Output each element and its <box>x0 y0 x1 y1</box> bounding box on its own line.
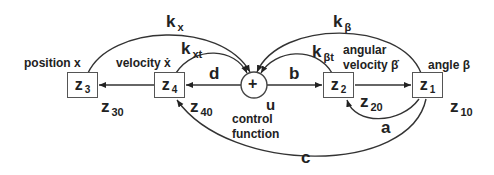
z2-initial: z20 <box>360 92 383 113</box>
node-z1-main: z <box>420 76 428 93</box>
z40-sub: 40 <box>201 106 213 118</box>
z30-sub: 30 <box>112 106 124 118</box>
edge-label-kxt: kxt <box>181 39 202 60</box>
edge-label-kx: kx <box>166 12 184 33</box>
z1-initial: z10 <box>450 97 473 118</box>
kxt-sub: xt <box>192 48 202 60</box>
z4-label: velocity ẋ <box>116 56 171 70</box>
edge-label-kbt: kβt <box>312 42 334 63</box>
control-system-diagram: z3 z4 z2 z1 + u control function positio… <box>0 0 494 175</box>
kbt-main: k <box>312 42 321 61</box>
z4-initial: z40 <box>190 97 213 118</box>
node-z1: z1 <box>412 72 443 98</box>
node-z4: z4 <box>154 72 185 98</box>
control-label-line2: function <box>232 127 279 141</box>
edge-a <box>347 99 419 119</box>
control-output-u: u <box>266 96 275 113</box>
node-z2-sub: 2 <box>341 84 347 95</box>
z20-sub: 20 <box>371 101 383 113</box>
node-z3-main: z <box>75 76 83 93</box>
kbeta-sub: β <box>344 21 351 33</box>
kx-main: k <box>166 12 175 31</box>
z3-initial: z30 <box>101 97 124 118</box>
kbt-sub: βt <box>323 51 333 63</box>
control-label-line1: control <box>232 112 273 126</box>
node-z4-sub: 4 <box>172 84 178 95</box>
kbeta-main: k <box>333 12 342 31</box>
edge-label-a: a <box>381 118 390 138</box>
z30-main: z <box>101 97 110 116</box>
z10-main: z <box>450 97 459 116</box>
z40-main: z <box>190 97 199 116</box>
z3-label: position x <box>24 56 81 70</box>
edge-label-kbeta: kβ <box>333 12 351 33</box>
node-z4-main: z <box>162 76 170 93</box>
node-z2: z2 <box>323 72 354 98</box>
edge-label-b: b <box>289 64 299 84</box>
edge-label-c: c <box>301 148 310 168</box>
z1-label: angle β <box>428 58 470 72</box>
z2-label-line1: angular <box>343 43 386 57</box>
z2-label-line2: velocity β̇ <box>343 58 398 72</box>
kx-sub: x <box>177 21 183 33</box>
sum-plus-symbol: + <box>248 75 257 93</box>
z10-sub: 10 <box>461 106 473 118</box>
node-z3-sub: 3 <box>85 84 91 95</box>
node-z1-sub: 1 <box>430 84 436 95</box>
z20-main: z <box>360 92 369 111</box>
edge-label-d: d <box>209 64 219 84</box>
node-z3: z3 <box>67 72 98 98</box>
node-z2-main: z <box>331 76 339 93</box>
kxt-main: k <box>181 39 190 58</box>
